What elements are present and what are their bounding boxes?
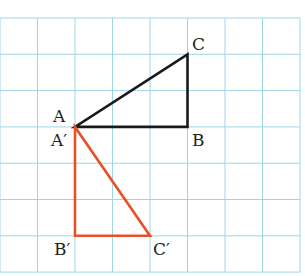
label-c: C [192, 34, 205, 54]
label-c-prime: C′ [153, 239, 170, 259]
label-a-prime: A′ [50, 130, 67, 150]
label-a: A [52, 106, 66, 126]
grid-diagram: A A′ B C B′ C′ [0, 0, 305, 276]
label-b: B [192, 130, 205, 150]
label-b-prime: B′ [54, 239, 70, 259]
